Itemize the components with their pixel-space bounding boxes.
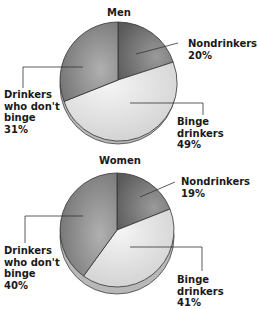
women-nonbinge-pct: 40% (4, 280, 60, 292)
women-title: Women (99, 155, 141, 166)
men-title: Men (107, 7, 131, 18)
women-nondrinkers-pct: 19% (181, 188, 250, 200)
women-binge-pct: 41% (177, 297, 250, 309)
women-binge-text: Binge drinkers (177, 274, 250, 297)
women-label-nonbinge: Drinkers who don't binge 40% (4, 245, 60, 291)
women-nonbinge-line1: Drinkers (4, 245, 60, 257)
women-nondrinkers-text: Nondrinkers (181, 176, 250, 188)
men-nonbinge-pct: 31% (4, 124, 60, 136)
men-label-nonbinge: Drinkers who don't binge 31% (4, 89, 60, 135)
men-nonbinge-line1: Drinkers (4, 89, 60, 101)
men-nonbinge-line2: who don't (4, 101, 60, 113)
women-nonbinge-line3: binge (4, 268, 60, 280)
men-nondrinkers-pct: 20% (188, 50, 257, 62)
women-nonbinge-line2: who don't (4, 257, 60, 269)
men-binge-text: Binge drinkers (177, 116, 250, 139)
women-label-nondrinkers: Nondrinkers 19% (181, 176, 250, 199)
men-label-nondrinkers: Nondrinkers 20% (188, 38, 257, 61)
men-label-binge: Binge drinkers 49% (177, 116, 250, 151)
men-nonbinge-line3: binge (4, 112, 60, 124)
women-label-binge: Binge drinkers 41% (177, 274, 250, 309)
men-binge-pct: 49% (177, 139, 250, 151)
men-nondrinkers-text: Nondrinkers (188, 38, 257, 50)
